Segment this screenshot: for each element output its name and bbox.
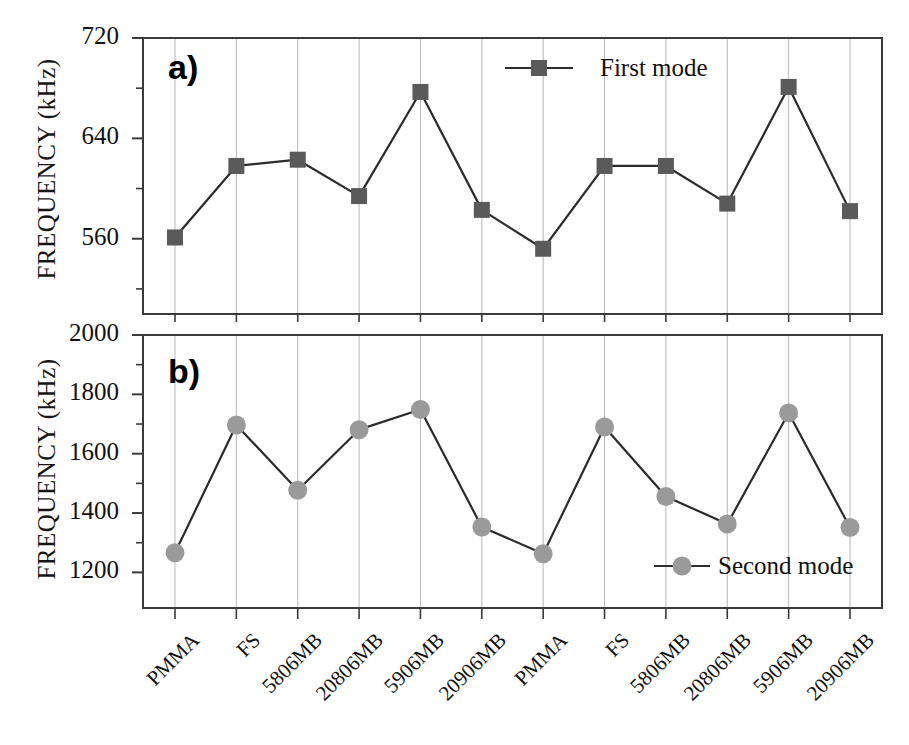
- panel-b-legend-label: Second mode: [718, 552, 853, 580]
- data-point-marker: [534, 544, 553, 563]
- data-point-marker: [412, 84, 428, 100]
- plot-frame: [143, 38, 882, 314]
- y-tick-label: 720: [49, 22, 119, 50]
- panel-a-legend-glyph: [505, 60, 573, 76]
- y-tick-label: 560: [49, 223, 119, 251]
- panel-b-label: b): [168, 352, 200, 391]
- plot-svg: [0, 0, 909, 745]
- y-tick-label: 1200: [49, 556, 119, 584]
- panel-a-label: a): [168, 48, 198, 87]
- data-point-marker: [595, 417, 614, 436]
- data-point-marker: [719, 196, 735, 212]
- data-point-marker: [474, 202, 490, 218]
- data-point-marker: [597, 158, 613, 174]
- figure-container: FREQUENCY (kHz) FREQUENCY (kHz) a) b) Fi…: [0, 0, 909, 745]
- data-point-marker: [227, 415, 246, 434]
- data-point-marker: [167, 229, 183, 245]
- panel-b-legend-glyph: [654, 557, 710, 576]
- data-point-marker: [472, 517, 491, 536]
- data-point-marker: [290, 152, 306, 168]
- data-point-marker: [781, 79, 797, 95]
- y-tick-label: 2000: [49, 319, 119, 347]
- panel-a-y-axis-title: FREQUENCY (kHz): [33, 44, 61, 294]
- data-point-marker: [350, 420, 369, 439]
- data-point-marker: [411, 400, 430, 419]
- y-tick-label: 1600: [49, 438, 119, 466]
- panel-a-legend-label: First mode: [600, 54, 708, 82]
- data-point-marker: [658, 158, 674, 174]
- data-point-marker: [718, 515, 737, 534]
- data-point-marker: [841, 518, 860, 537]
- data-point-marker: [288, 481, 307, 500]
- data-point-marker: [656, 487, 675, 506]
- y-tick-label: 1400: [49, 497, 119, 525]
- series-line: [175, 87, 850, 249]
- data-point-marker: [535, 241, 551, 257]
- y-tick-label: 640: [49, 122, 119, 150]
- data-point-marker: [228, 158, 244, 174]
- panel-a-plot: [132, 38, 882, 322]
- data-point-marker: [351, 188, 367, 204]
- data-point-marker: [166, 543, 185, 562]
- data-point-marker: [842, 203, 858, 219]
- series-line: [175, 409, 850, 553]
- data-point-marker: [779, 404, 798, 423]
- y-tick-label: 1800: [49, 378, 119, 406]
